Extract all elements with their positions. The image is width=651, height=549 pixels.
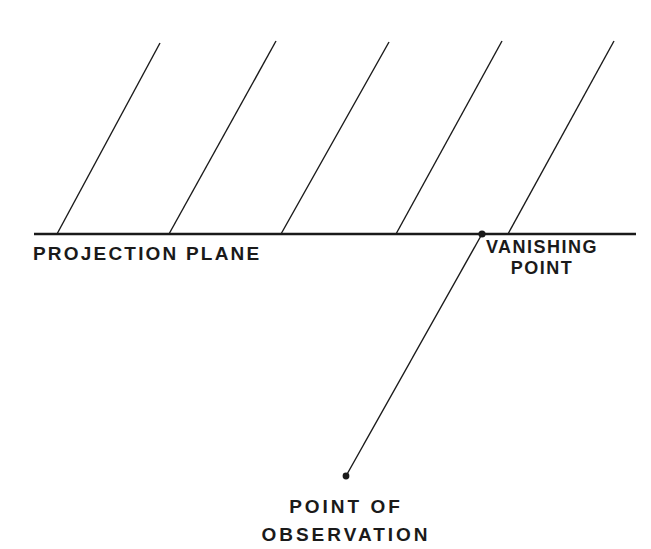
point-of-observation-label-line1: POINT OF (256, 493, 436, 521)
parallel-line-1 (57, 43, 160, 234)
parallel-line-5 (508, 41, 614, 234)
vanishing-point-label-line2: POINT (484, 258, 600, 279)
parallel-lines-group (57, 41, 614, 234)
vanishing-point-label-line1: VANISHING (484, 237, 600, 258)
vanishing-point-label: VANISHING POINT (484, 237, 600, 279)
observation-point-dot (343, 473, 350, 480)
point-of-observation-label: POINT OF OBSERVATION (256, 493, 436, 549)
point-of-observation-label-line2: OBSERVATION (256, 521, 436, 549)
sight-line (346, 234, 482, 476)
parallel-line-2 (169, 41, 276, 234)
projection-plane-label: PROJECTION PLANE (33, 244, 261, 263)
parallel-line-4 (396, 41, 502, 234)
parallel-line-3 (281, 42, 389, 234)
